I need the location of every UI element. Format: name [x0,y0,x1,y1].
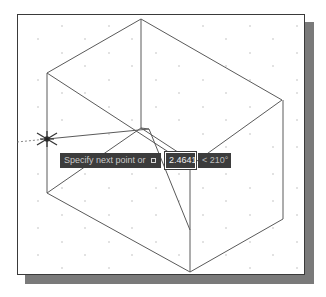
prompt-text: Specify next point or [64,155,146,165]
distance-input[interactable]: 2.4641 [165,152,196,169]
drawing-canvas[interactable] [0,0,326,297]
grid-dots [37,25,298,269]
down-arrow-icon[interactable] [150,157,157,164]
dynamic-input-prompt: Specify next point or [60,153,161,168]
angle-input[interactable]: < 210° [198,153,231,168]
isometric-box [47,19,283,272]
crosshair-icon [37,131,57,147]
